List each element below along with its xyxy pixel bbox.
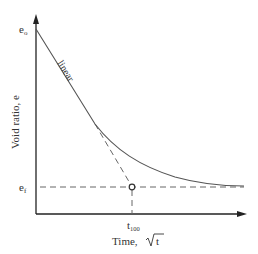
x-axis-title-text: Time, <box>112 235 138 247</box>
consolidation-curve <box>36 29 244 186</box>
y-axis-arrow-icon <box>33 14 39 24</box>
t100-intersection-marker <box>129 184 135 190</box>
sqrt-icon <box>146 234 164 246</box>
x-axis-arrow-icon <box>237 211 247 217</box>
linear-extension-dashed-line <box>95 124 131 185</box>
sqrt-variable: t <box>156 235 159 247</box>
t100-label: t100 <box>127 219 140 232</box>
consolidation-chart: eo ef linear Void ratio, e t100 Time, t <box>0 0 258 254</box>
y-axis-title: Void ratio, e <box>9 95 21 149</box>
linear-annotation: linear <box>55 58 77 84</box>
ef-label: ef <box>19 181 27 195</box>
e0-label: eo <box>19 23 28 37</box>
x-axis-title: Time, t <box>112 234 164 247</box>
